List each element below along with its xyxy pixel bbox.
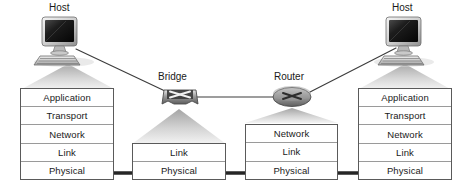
bridge-switch-icon [162, 90, 198, 104]
logical-link-group [76, 48, 396, 97]
router-device-icon [273, 86, 311, 107]
caption-router: Router [274, 71, 304, 82]
layer-bridge-link: Link [133, 144, 225, 162]
stack-bridge: Link Physical [132, 143, 226, 180]
layer-host-left-link: Link [21, 144, 113, 162]
layer-bridge-physical: Physical [133, 162, 225, 179]
layer-host-right-transport: Transport [359, 107, 451, 125]
stack-host-right: Application Transport Network Link Physi… [358, 88, 452, 180]
cone-bridge [132, 109, 226, 144]
layer-router-network: Network [246, 125, 337, 143]
layer-host-left-transport: Transport [21, 107, 113, 125]
layer-host-left-network: Network [21, 125, 113, 143]
cone-host-left [20, 64, 116, 90]
network-protocol-stack-diagram: Host Bridge Router Host Application Tran… [0, 0, 471, 195]
host-right-computer-icon [374, 17, 434, 67]
caption-bridge: Bridge [158, 71, 187, 82]
stack-host-left: Application Transport Network Link Physi… [20, 88, 114, 180]
layer-router-link: Link [246, 143, 337, 161]
layer-host-left-application: Application [21, 89, 113, 107]
layer-host-right-application: Application [359, 89, 451, 107]
cone-router [245, 108, 338, 123]
cone-host-right [357, 64, 452, 90]
layer-host-right-physical: Physical [359, 162, 451, 179]
stack-router: Network Link Physical [245, 124, 338, 180]
layer-host-left-physical: Physical [21, 162, 113, 179]
host-left-computer-icon [34, 17, 94, 67]
caption-host-left: Host [49, 2, 70, 13]
layer-host-right-link: Link [359, 144, 451, 162]
layer-router-physical: Physical [246, 162, 337, 179]
caption-host-right: Host [392, 2, 413, 13]
layer-host-right-network: Network [359, 125, 451, 143]
